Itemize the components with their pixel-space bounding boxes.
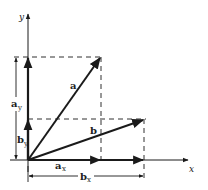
projection-lines xyxy=(14,57,146,182)
svg-text:y: y xyxy=(17,104,22,112)
svg-text:a: a xyxy=(55,160,62,171)
vector-b-label: b xyxy=(90,125,97,136)
svg-text:x: x xyxy=(87,176,91,184)
svg-text:a: a xyxy=(11,98,18,109)
vector-a xyxy=(28,58,100,160)
svg-text:y: y xyxy=(23,140,28,148)
svg-text:b: b xyxy=(80,171,87,182)
label-ax: a x xyxy=(55,160,66,173)
y-axis-label: y xyxy=(18,12,25,22)
label-ay: a y xyxy=(10,97,24,112)
label-bx: b x xyxy=(78,170,94,184)
svg-text:x: x xyxy=(62,165,66,173)
vector-a-label: a xyxy=(70,80,77,91)
label-by: b y xyxy=(17,134,28,148)
svg-text:b: b xyxy=(17,134,24,145)
vector-components-diagram: y x a b a y b y xyxy=(0,0,208,190)
x-axis-label: x xyxy=(189,164,194,174)
vector-b xyxy=(28,120,143,160)
